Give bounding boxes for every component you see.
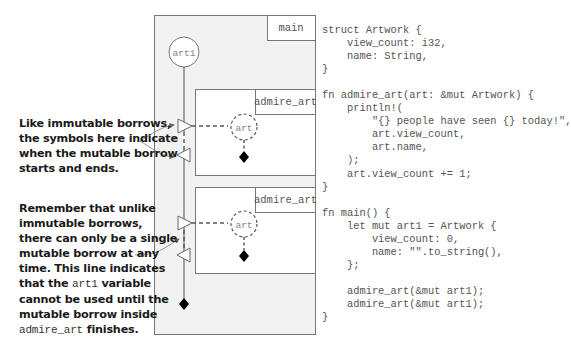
- main-scope-label: main: [278, 22, 303, 34]
- annotation-line: when the mutable borrow: [19, 146, 178, 161]
- art-borrow-label-2: art: [235, 220, 252, 231]
- annotation-text: that the: [19, 277, 72, 290]
- annotation-inline-code: art1: [72, 278, 98, 290]
- annotation-line: mutable borrow at any: [19, 246, 177, 261]
- annotation-line: time. This line indicates: [19, 261, 177, 276]
- code-line: }: [322, 311, 328, 323]
- code-line: admire_art(&mut art1);: [322, 298, 484, 310]
- code-line: name: String,: [322, 50, 428, 62]
- annotation-text: finishes.: [83, 323, 139, 336]
- annotation-line: mutable borrow inside: [19, 307, 177, 322]
- annotation-borrow-symbols: Like immutable borrows, the symbols here…: [19, 116, 178, 176]
- code-line: let mut art1 = Artwork {: [322, 220, 497, 232]
- code-line: }: [322, 63, 328, 75]
- code-line: println!(: [322, 102, 403, 114]
- annotation-inline-code: admire_art: [19, 324, 83, 336]
- annotation-line: that the art1 variable: [19, 276, 177, 292]
- admire-art-label-2: admire_art: [254, 194, 317, 206]
- code-line: };: [322, 259, 359, 271]
- code-line: art.view_count,: [322, 128, 465, 140]
- admire-art-label-1: admire_art: [254, 96, 317, 108]
- art-borrow-label-1: art: [235, 123, 252, 134]
- code-line: view_count: i32,: [322, 37, 447, 49]
- code-line: fn main() {: [322, 207, 391, 219]
- code-line: }: [322, 181, 328, 193]
- annotation-single-mutable-borrow: Remember that unlike immutable borrows, …: [19, 201, 177, 338]
- code-line: "{} people have seen {} today!",: [322, 115, 571, 127]
- code-line: art.view_count += 1;: [322, 168, 472, 180]
- code-line: view_count: 0,: [322, 233, 459, 245]
- annotation-line: admire_art finishes.: [19, 322, 177, 338]
- art1-variable-label: art1: [173, 48, 196, 59]
- annotation-line: Remember that unlike: [19, 201, 177, 216]
- code-line: art.name,: [322, 141, 428, 153]
- annotation-line: the symbols here indicate: [19, 131, 178, 146]
- annotation-line: there can only be a single: [19, 231, 177, 246]
- code-line: fn admire_art(art: &mut Artwork) {: [322, 89, 534, 101]
- code-line: struct Artwork {: [322, 24, 422, 36]
- annotation-line: Like immutable borrows,: [19, 116, 178, 131]
- annotation-line: starts and ends.: [19, 161, 178, 176]
- code-line: name: "".to_string(),: [322, 246, 503, 258]
- code-line: admire_art(&mut art1);: [322, 285, 484, 297]
- code-line: );: [322, 154, 359, 166]
- code-listing: struct Artwork { view_count: i32, name: …: [322, 24, 571, 324]
- annotation-text: variable: [98, 277, 151, 290]
- annotation-line: cannot be used until the: [19, 292, 177, 307]
- annotation-line: immutable borrows,: [19, 216, 177, 231]
